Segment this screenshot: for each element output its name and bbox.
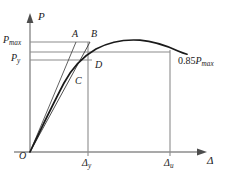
x-tick-delta-u-main: Δ [164,157,170,168]
origin-label: O [19,151,26,161]
x-tick-delta-y-main: Δ [82,157,88,168]
y-axis [27,13,34,152]
y-axis-label: P [38,11,45,22]
annotation-residual-strength: 0.85Pmax [178,56,214,66]
secant-line-oa [30,42,76,152]
horizontal-guide-lines [30,42,170,60]
load-deflection-diagram: P Δ O Pmax Py Δy Δu A B C D 0.85Pmax [0,0,228,178]
secant-line-ob [30,42,90,152]
y-tick-label-p-max: Pmax [3,35,21,45]
x-tick-delta-y-sub: y [88,162,91,170]
x-axis [14,149,207,156]
point-label-d: D [95,60,102,70]
x-tick-label-delta-y: Δy [82,158,91,168]
annotation-main: P [196,55,202,66]
annotation-prefix: 0.85 [178,55,196,66]
x-tick-delta-u-sub: u [170,162,174,170]
x-axis-label: Δ [207,155,213,166]
y-tick-p-y-sub: y [17,57,20,65]
y-tick-label-p-y: Py [11,53,20,63]
point-label-a: A [72,29,78,39]
plot-canvas [0,0,228,178]
point-label-c: C [75,76,82,86]
y-tick-p-max-sub: max [9,39,21,47]
point-label-b: B [91,29,97,39]
annotation-sub: max [202,60,214,68]
x-tick-label-delta-u: Δu [164,158,173,168]
